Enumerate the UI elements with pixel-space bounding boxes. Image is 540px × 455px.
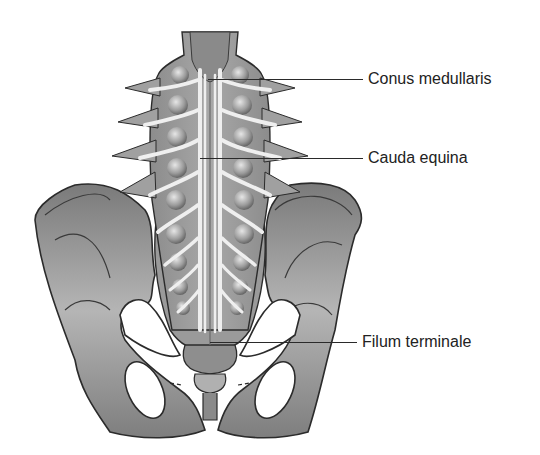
filum-terminale-leader-line	[210, 342, 357, 343]
label-cauda-equina: Cauda equina	[368, 149, 468, 167]
label-conus-medullaris: Conus medullaris	[368, 70, 492, 88]
spine-pelvis-illustration	[0, 0, 540, 455]
conus-medullaris-leader-line	[208, 79, 363, 80]
cauda-equina-leader-line	[200, 158, 363, 159]
label-filum-terminale: Filum terminale	[362, 333, 471, 351]
